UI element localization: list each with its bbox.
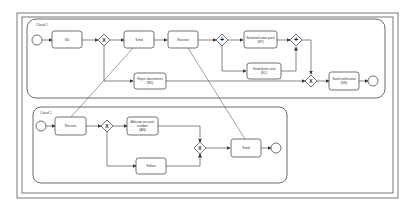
task-allocate-account-number: Allocate account number (AN) [127, 117, 158, 135]
task-send-cloud-1: Send [124, 31, 154, 48]
task-follow-label: Follow [146, 164, 156, 168]
task-send-bank-card: Send bank card (SC) [247, 63, 281, 79]
gateway-exclusive-1: X [98, 34, 110, 46]
task-receive-label: Receive [177, 38, 189, 42]
gateway-exclusive-merge-cloud-2: X [194, 142, 206, 154]
task-sc-code: (SC) [261, 71, 268, 75]
task-sp-code: (SP) [257, 40, 263, 44]
pool-label-cloud-2: Cloud 2 [40, 111, 52, 115]
task-send-label: Send [135, 38, 143, 42]
gateway-parallel-split: + [216, 34, 228, 46]
task-receive-label: Receive [65, 124, 77, 128]
task-sn-code: (SN) [341, 81, 348, 85]
task-aan-code: (AN) [139, 128, 146, 132]
task-reject-documents: Reject documents (RD) [134, 73, 166, 89]
gateway-plus-icon: + [220, 36, 224, 43]
task-send-notification: Send notification (SN) [329, 72, 359, 90]
gateway-parallel-join: + [290, 34, 302, 46]
task-rd-code: (RD) [147, 81, 154, 85]
task-receive-cloud-2: Receive [55, 117, 86, 135]
start-event-cloud-1 [32, 35, 42, 45]
end-event-cloud-1 [368, 76, 378, 86]
task-send-welcome-pack: Send welcome pack (SP) [244, 31, 277, 48]
task-sd-label: SD [65, 38, 70, 42]
task-receive-cloud-1: Receive [168, 31, 198, 48]
start-event-cloud-2 [36, 121, 46, 131]
pool-label-cloud-1: Cloud 1 [36, 23, 48, 27]
task-sd: SD [52, 31, 82, 48]
task-follow: Follow [136, 158, 166, 174]
task-send-cloud-2: Send [231, 139, 261, 157]
gateway-exclusive-split-cloud-2: X [101, 120, 113, 132]
bpmn-diagram: Cloud 1 Cloud 2 SD X Send Re [0, 0, 414, 202]
gateway-exclusive-merge: X [305, 75, 317, 87]
gateway-plus-icon: + [294, 36, 298, 43]
message-flow-receive-to-send [188, 48, 245, 139]
end-event-cloud-2 [271, 143, 281, 153]
task-send-label: Send [242, 146, 250, 150]
